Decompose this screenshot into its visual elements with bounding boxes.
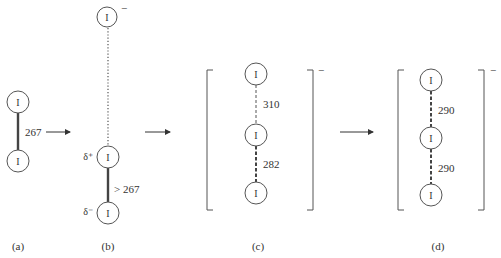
left-bracket (398, 70, 404, 210)
atom-c-top: I (245, 63, 267, 85)
bond-length-label-upper: 290 (438, 104, 455, 116)
bond-length-label-lower: 282 (263, 158, 280, 170)
atom-symbol: I (105, 12, 108, 23)
atom-symbol: I (16, 156, 19, 167)
atom-symbol: I (106, 152, 109, 163)
atom-symbol: I (429, 75, 432, 86)
panel-a: I I 267 (a) (7, 91, 42, 253)
atom-symbol: I (254, 188, 257, 199)
bond-length-label-upper: 310 (263, 98, 280, 110)
atom-symbol: I (16, 97, 19, 108)
atom-c-middle: I (245, 124, 267, 146)
negative-charge: − (121, 2, 127, 14)
bond-length-label-lower: 290 (438, 162, 455, 174)
atom-b-top: I (97, 7, 117, 27)
atom-symbol: I (106, 208, 109, 219)
right-bracket (307, 70, 313, 210)
panel-label-d: (d) (432, 240, 445, 253)
panel-label-b: (b) (102, 240, 115, 253)
iodine-triiodide-formation-diagram: I I 267 (a) I − I δ⁺ (0, 0, 501, 258)
delta-minus-label: δ⁻ (83, 206, 93, 217)
delta-plus-label: δ⁺ (83, 151, 93, 162)
atom-a-top: I (7, 91, 29, 113)
atom-c-bottom: I (245, 182, 267, 204)
atom-b-bottom: I (97, 202, 119, 224)
atom-d-top: I (420, 69, 442, 91)
bond-length-label: > 267 (114, 183, 140, 195)
negative-charge: − (318, 64, 324, 76)
atom-symbol: I (429, 133, 432, 144)
bond-length-label: 267 (25, 126, 42, 138)
atom-symbol: I (254, 69, 257, 80)
panel-d: − I I I 290 290 (d) (398, 64, 496, 253)
panel-label-a: (a) (12, 240, 25, 253)
atom-d-middle: I (420, 127, 442, 149)
atom-symbol: I (429, 190, 432, 201)
negative-charge: − (490, 64, 496, 76)
atom-b-middle: I (97, 146, 119, 168)
atom-symbol: I (254, 130, 257, 141)
atom-d-bottom: I (420, 184, 442, 206)
panel-c: − I I I 310 282 (c) (207, 63, 324, 253)
left-bracket (207, 70, 213, 210)
panel-b: I − I δ⁺ I δ⁻ > 267 (b) (83, 2, 140, 253)
panel-label-c: (c) (252, 240, 265, 253)
right-bracket (478, 70, 484, 210)
atom-a-bottom: I (7, 150, 29, 172)
diagram-canvas: I I 267 (a) I − I δ⁺ (0, 0, 501, 258)
